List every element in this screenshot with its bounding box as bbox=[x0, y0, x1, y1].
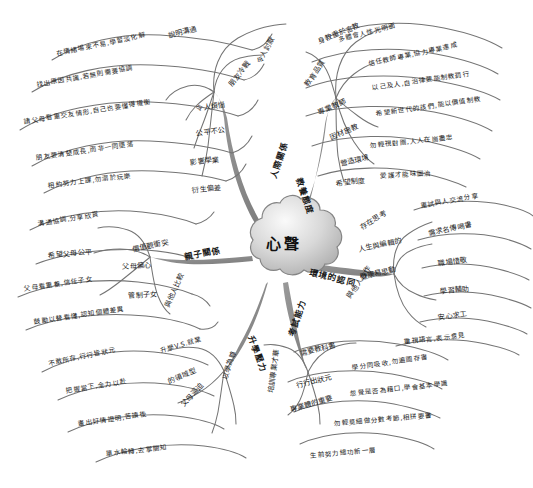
leaf-line bbox=[294, 341, 448, 360]
leaf-line bbox=[192, 294, 210, 306]
leaf-line bbox=[44, 171, 226, 193]
leaf-line bbox=[418, 234, 531, 249]
sub-branch bbox=[336, 63, 374, 98]
sub-branch bbox=[202, 92, 214, 176]
center-cloud[interactable] bbox=[250, 196, 341, 275]
leaf-line bbox=[26, 315, 200, 330]
mindmap-canvas: 心聲 人際關係說明溝通令人討厭朋友冷戰令人煩惱公平不公影響學業衍生偏差在情緒場來… bbox=[0, 0, 533, 488]
leaf-line bbox=[244, 64, 264, 80]
sub-branch bbox=[100, 257, 150, 295]
leaf-line bbox=[68, 415, 224, 432]
cloud-shape[interactable] bbox=[250, 196, 341, 275]
leaf-line bbox=[306, 106, 492, 131]
sub-branch bbox=[214, 24, 286, 92]
main-branch-parenting bbox=[150, 256, 253, 264]
sub-branch bbox=[166, 85, 214, 100]
sub-branch bbox=[308, 343, 356, 372]
sub-branch bbox=[336, 98, 378, 127]
sub-branch bbox=[168, 347, 224, 371]
leaf-line bbox=[18, 281, 192, 297]
leaf-line bbox=[238, 100, 258, 116]
leaf-line bbox=[32, 65, 244, 92]
leaf-line bbox=[318, 168, 466, 187]
leaf-line bbox=[422, 264, 529, 280]
leaf-line bbox=[424, 292, 531, 308]
main-branch-studypressure bbox=[224, 282, 268, 371]
sub-branch bbox=[98, 227, 150, 257]
leaf-line bbox=[420, 318, 527, 334]
leaf-line bbox=[294, 401, 440, 418]
leaf-line bbox=[32, 141, 232, 166]
leaf-line bbox=[252, 34, 272, 50]
leaf-line bbox=[200, 322, 218, 329]
leaf-line bbox=[96, 445, 246, 462]
leaf-line bbox=[52, 35, 252, 60]
sub-branch bbox=[394, 244, 432, 274]
main-branch-interpersonal bbox=[214, 92, 263, 228]
leaf-line bbox=[414, 201, 533, 216]
sub-branch bbox=[224, 371, 236, 424]
leaf-line bbox=[42, 351, 208, 372]
mindmap-svg bbox=[0, 0, 533, 488]
leaf-line bbox=[330, 23, 502, 48]
sub-branch bbox=[394, 222, 432, 274]
sub-branch bbox=[308, 372, 320, 424]
sub-branch bbox=[336, 26, 392, 98]
leaf-line bbox=[232, 136, 252, 153]
sub-branch bbox=[394, 274, 436, 300]
main-branch-studyability bbox=[283, 282, 308, 372]
sub-branch bbox=[264, 344, 308, 372]
leaf-line bbox=[300, 433, 434, 449]
leaf-line bbox=[312, 49, 498, 74]
leaf-line bbox=[196, 212, 214, 224]
